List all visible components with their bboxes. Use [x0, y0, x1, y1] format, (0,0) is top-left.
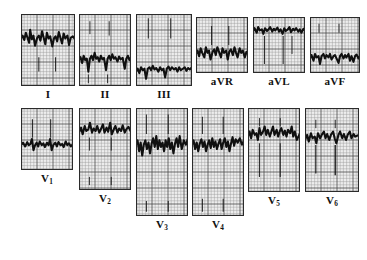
- lead-label-text: aVF: [324, 75, 345, 87]
- lead-label-ii: II: [79, 89, 131, 100]
- ecg-panel-i: [21, 14, 75, 86]
- ecg-panel-ii: [79, 14, 131, 86]
- lead-label-text: III: [157, 88, 171, 100]
- ecg-trace-svg-v1: [21, 108, 73, 170]
- lead-label-text: V: [326, 194, 334, 206]
- lead-label-subscript: 4: [220, 224, 224, 232]
- lead-label-i: I: [21, 89, 75, 100]
- ecg-figure: IIIIIIaVRaVLaVFV1V2V3V4V5V6: [0, 0, 367, 260]
- ecg-trace-svg-v4: [192, 108, 244, 216]
- ecg-panel-v4: [192, 108, 244, 216]
- grid-background: [21, 14, 75, 86]
- ecg-panel-v2: [79, 108, 131, 190]
- lead-label-subscript: 6: [334, 200, 338, 208]
- lead-label-text: V: [41, 172, 49, 184]
- lead-label-subscript: 2: [107, 198, 111, 206]
- lead-label-subscript: 5: [276, 200, 280, 208]
- ecg-panel-v6: [305, 108, 359, 192]
- lead-label-text: aVR: [211, 75, 233, 87]
- ecg-panel-v3: [136, 108, 188, 216]
- ecg-panel-iii: [136, 14, 192, 86]
- ecg-trace-svg-v6: [305, 108, 359, 192]
- lead-label-v5: V5: [248, 195, 300, 206]
- ecg-panel-v5: [248, 108, 300, 192]
- ecg-trace-svg-v2: [79, 108, 131, 190]
- grid-background: [21, 108, 73, 170]
- ecg-trace-svg-iii: [136, 14, 192, 86]
- lead-label-avl: aVL: [253, 76, 305, 87]
- ecg-panel-v1: [21, 108, 73, 170]
- lead-label-text: V: [156, 218, 164, 230]
- grid-background: [79, 14, 131, 86]
- ecg-trace-svg-ii: [79, 14, 131, 86]
- ecg-panel-avf: [310, 17, 360, 73]
- lead-label-text: V: [212, 218, 220, 230]
- ecg-trace-svg-i: [21, 14, 75, 86]
- ecg-trace-svg-avl: [253, 17, 305, 73]
- ecg-trace-svg-avr: [196, 17, 248, 73]
- lead-label-text: aVL: [268, 75, 290, 87]
- lead-label-avr: aVR: [196, 76, 248, 87]
- lead-label-v4: V4: [192, 219, 244, 230]
- ecg-trace-svg-v3: [136, 108, 188, 216]
- lead-label-v2: V2: [79, 193, 131, 204]
- ecg-panel-avr: [196, 17, 248, 73]
- lead-label-v3: V3: [136, 219, 188, 230]
- lead-label-subscript: 1: [49, 178, 53, 186]
- ecg-trace-svg-v5: [248, 108, 300, 192]
- lead-label-text: V: [99, 192, 107, 204]
- lead-label-avf: aVF: [310, 76, 360, 87]
- grid-background: [79, 108, 131, 190]
- lead-label-text: I: [46, 88, 51, 100]
- lead-label-text: II: [100, 88, 109, 100]
- lead-label-v6: V6: [305, 195, 359, 206]
- ecg-panel-avl: [253, 17, 305, 73]
- ecg-trace-svg-avf: [310, 17, 360, 73]
- lead-label-text: V: [268, 194, 276, 206]
- lead-label-v1: V1: [21, 173, 73, 184]
- lead-label-iii: III: [136, 89, 192, 100]
- lead-label-subscript: 3: [164, 224, 168, 232]
